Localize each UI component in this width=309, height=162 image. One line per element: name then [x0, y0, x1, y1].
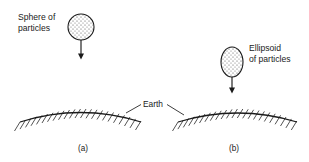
earth-callout: Earth — [126, 99, 184, 115]
earth-leader-left — [126, 105, 141, 114]
ground-hatching-b — [173, 109, 297, 131]
earth-leader-right — [167, 105, 184, 116]
earth-surface-arc-a — [20, 113, 141, 123]
sphere-of-particles-icon — [68, 14, 94, 40]
ellipsoid-of-particles-icon — [221, 47, 243, 77]
panel-b: Ellipsoid of particles — [173, 43, 298, 153]
panel-a: Sphere of particles — [15, 12, 142, 153]
ellipsoid-of-particles-label: Ellipsoid of particles — [249, 43, 291, 64]
sphere-label-line-2: particles — [18, 23, 50, 33]
sphere-of-particles-label: Sphere of particles — [18, 12, 56, 33]
tidal-deformation-figure: Sphere of particles — [0, 0, 309, 162]
caption-b: (b) — [229, 144, 239, 153]
ellipsoid-label-line-2: of particles — [249, 54, 291, 64]
figure-canvas: Sphere of particles — [0, 0, 309, 162]
earth-label: Earth — [143, 99, 163, 109]
ellipsoid-label-line-1: Ellipsoid — [249, 43, 281, 53]
sphere-label-line-1: Sphere of — [18, 12, 56, 22]
caption-a: (a) — [78, 144, 88, 153]
